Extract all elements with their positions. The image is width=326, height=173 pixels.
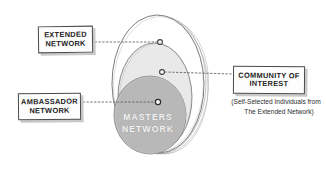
community-of-interest-caption: (Self-Selected Individuals from The Exte…	[228, 97, 324, 117]
ambassador-anchor-dot	[155, 99, 160, 104]
label-extended-network-line2: NETWORK	[45, 39, 85, 48]
label-ambassador-network-line2: NETWORK	[29, 106, 69, 115]
label-community-of-interest[interactable]: COMMUNITY OF INTEREST	[233, 66, 305, 95]
label-community-of-interest-line2: INTEREST	[249, 80, 288, 89]
caption-line1: (Self-Selected Individuals from	[228, 97, 324, 107]
extended-anchor-dot	[158, 40, 163, 45]
community-anchor-dot	[160, 70, 165, 75]
caption-line2: The Extended Network)	[228, 107, 324, 117]
label-ambassador-network[interactable]: AMBASSADOR NETWORK	[18, 93, 81, 121]
label-extended-network[interactable]: EXTENDED NETWORK	[38, 26, 93, 54]
diagram-canvas: MASTERS NETWORK EXTENDED NETWORK AMBASSA…	[0, 0, 326, 173]
